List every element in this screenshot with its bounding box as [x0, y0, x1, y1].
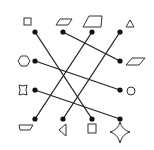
dot-bottom-4 [117, 116, 122, 121]
dot-right-2 [117, 87, 122, 92]
dot-top-1 [32, 29, 37, 34]
dot-bottom-3 [89, 116, 94, 121]
hexagon-icon [18, 56, 30, 66]
concave-square-icon [19, 85, 27, 95]
square-icon [88, 124, 96, 133]
trapezoid-icon [83, 16, 102, 27]
dot-left-2 [32, 87, 37, 92]
square-icon [24, 18, 31, 25]
parallelogram-icon [126, 58, 145, 65]
octagon-icon [127, 87, 135, 95]
dot-right-1 [117, 58, 122, 63]
connection-line [35, 61, 120, 90]
connection-line [63, 32, 120, 119]
trapezoid-slanted-icon [19, 125, 33, 130]
four-point-star-icon [110, 122, 130, 143]
triangle-icon [126, 20, 134, 27]
dot-bottom-2 [60, 116, 65, 121]
connection-line [35, 90, 120, 119]
diagram-canvas [0, 0, 154, 150]
triangle-left-icon [59, 124, 66, 136]
connection-line [63, 32, 120, 61]
dot-top-4 [117, 29, 122, 34]
parallelogram-icon [56, 19, 72, 25]
connection-lines [35, 32, 120, 119]
dot-top-2 [60, 29, 65, 34]
dot-top-3 [89, 29, 94, 34]
diagram-svg [0, 0, 154, 150]
dot-left-1 [32, 58, 37, 63]
dot-bottom-1 [32, 116, 37, 121]
